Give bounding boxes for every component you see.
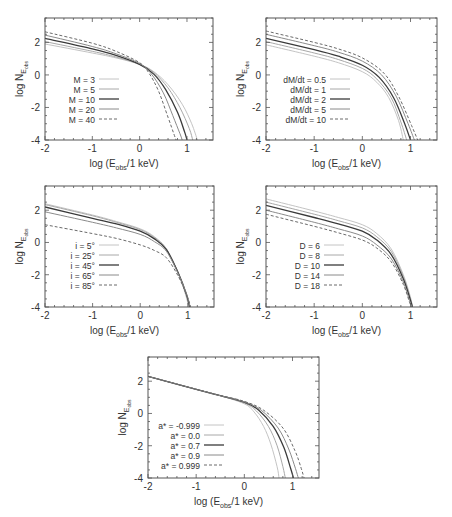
x-tick-label: -2 bbox=[262, 310, 271, 321]
series-line bbox=[266, 214, 412, 307]
legend-label: i = 65° bbox=[71, 271, 95, 281]
legend-label: i = 5° bbox=[75, 241, 95, 251]
y-axis-label: log NEobs bbox=[14, 60, 29, 97]
x-axis-label: log (Eobs/1 keV) bbox=[312, 325, 381, 338]
legend-label: a* = 0.999 bbox=[161, 461, 200, 471]
chart-panel-distance: -2-101-4-202log (Eobs/1 keV)log NEobsD =… bbox=[235, 186, 437, 338]
y-tick-label: -2 bbox=[31, 102, 40, 113]
y-tick-label: 2 bbox=[255, 205, 261, 216]
legend-label: M = 20 bbox=[69, 105, 95, 115]
x-tick-label: 1 bbox=[184, 143, 190, 154]
y-tick-label: 2 bbox=[34, 37, 40, 48]
series-line bbox=[45, 225, 191, 307]
figure-canvas: -2-101-4-202log (Eobs/1 keV)log NEobsM =… bbox=[0, 0, 452, 517]
legend-label: dM/dt = 1 bbox=[290, 85, 326, 95]
legend-label: D = 6 bbox=[299, 241, 320, 251]
x-tick-label: -1 bbox=[310, 143, 319, 154]
x-tick-label: -1 bbox=[88, 310, 97, 321]
y-tick-label: 0 bbox=[34, 237, 40, 248]
y-tick-label: 0 bbox=[34, 70, 40, 81]
y-tick-label: 2 bbox=[255, 37, 261, 48]
y-tick-label: -4 bbox=[134, 473, 143, 484]
legend-label: dM/dt = 0.5 bbox=[283, 75, 326, 85]
y-tick-label: 0 bbox=[255, 237, 261, 248]
legend-label: D = 14 bbox=[295, 271, 321, 281]
chart-panel-inclination: -2-101-4-202log (Eobs/1 keV)log NEobsi =… bbox=[14, 186, 214, 338]
x-axis-label: log (Eobs/1 keV) bbox=[194, 496, 263, 509]
legend-label: a* = 0.7 bbox=[170, 441, 200, 451]
plot-frame bbox=[266, 186, 437, 307]
x-tick-label: 0 bbox=[137, 310, 143, 321]
y-tick-label: -2 bbox=[31, 270, 40, 281]
chart-panel-accretion-rate: -2-101-4-202log (Eobs/1 keV)log NEobsdM/… bbox=[235, 18, 437, 171]
x-tick-label: -2 bbox=[41, 310, 50, 321]
x-tick-label: 0 bbox=[137, 143, 143, 154]
legend: D = 6D = 8D = 10D = 14D = 18 bbox=[295, 241, 344, 291]
y-tick-label: -4 bbox=[31, 135, 40, 146]
legend: i = 5°i = 25°i = 45°i = 65°i = 85° bbox=[71, 241, 119, 291]
x-tick-label: 1 bbox=[290, 481, 296, 492]
legend-label: D = 10 bbox=[295, 261, 321, 271]
x-tick-label: 0 bbox=[360, 310, 366, 321]
y-tick-label: -4 bbox=[31, 302, 40, 313]
legend-label: M = 5 bbox=[74, 85, 96, 95]
x-tick-label: -2 bbox=[41, 143, 50, 154]
chart-panel-spin: -2-101-4-202log (Eobs/1 keV)log NEobsa* … bbox=[117, 357, 319, 509]
x-tick-label: 0 bbox=[242, 481, 248, 492]
y-tick-label: -4 bbox=[252, 302, 261, 313]
legend: dM/dt = 0.5dM/dt = 1dM/dt = 2dM/dt = 5dM… bbox=[283, 75, 350, 125]
legend-label: M = 3 bbox=[74, 75, 96, 85]
y-tick-label: -2 bbox=[252, 102, 261, 113]
y-tick-label: -4 bbox=[252, 135, 261, 146]
y-tick-label: 0 bbox=[255, 70, 261, 81]
x-tick-label: 0 bbox=[360, 143, 366, 154]
legend: M = 3M = 5M = 10M = 20M = 40 bbox=[69, 75, 119, 125]
x-tick-label: -2 bbox=[262, 143, 271, 154]
y-axis-label: log NEobs bbox=[117, 399, 132, 436]
legend-label: i = 25° bbox=[71, 251, 95, 261]
x-axis-label: log (Eobs/1 keV) bbox=[90, 325, 159, 338]
x-tick-label: -1 bbox=[310, 310, 319, 321]
x-tick-label: 1 bbox=[185, 310, 191, 321]
legend-label: i = 85° bbox=[71, 281, 95, 291]
x-axis-label: log (Eobs/1 keV) bbox=[312, 158, 381, 171]
legend-label: dM/dt = 5 bbox=[290, 105, 326, 115]
plot-area bbox=[266, 199, 412, 307]
x-tick-label: 1 bbox=[408, 143, 414, 154]
legend-label: M = 40 bbox=[69, 115, 95, 125]
series-line bbox=[266, 42, 407, 140]
legend-label: a* = 0.9 bbox=[170, 451, 200, 461]
series-line bbox=[45, 212, 190, 307]
y-axis-label: log NEobs bbox=[235, 60, 250, 97]
series-line bbox=[266, 45, 403, 140]
x-tick-label: -2 bbox=[144, 481, 153, 492]
legend-label: dM/dt = 10 bbox=[286, 115, 327, 125]
y-axis-label: log NEobs bbox=[14, 228, 29, 265]
legend-label: a* = -0.999 bbox=[158, 421, 200, 431]
y-tick-label: 2 bbox=[34, 205, 40, 216]
y-tick-label: -2 bbox=[252, 270, 261, 281]
chart-panel-mass: -2-101-4-202log (Eobs/1 keV)log NEobsM =… bbox=[14, 18, 213, 171]
y-tick-label: -2 bbox=[134, 441, 143, 452]
x-axis-label: log (Eobs/1 keV) bbox=[89, 158, 158, 171]
legend-label: D = 18 bbox=[295, 281, 321, 291]
figure: -2-101-4-202log (Eobs/1 keV)log NEobsM =… bbox=[0, 0, 452, 517]
x-tick-label: -1 bbox=[88, 143, 97, 154]
legend: a* = -0.999a* = 0.0a* = 0.7a* = 0.9a* = … bbox=[158, 421, 224, 471]
series-line bbox=[45, 205, 189, 307]
legend-label: dM/dt = 2 bbox=[290, 95, 326, 105]
legend-label: D = 8 bbox=[299, 251, 320, 261]
y-tick-label: 0 bbox=[137, 408, 143, 419]
legend-label: M = 10 bbox=[69, 95, 95, 105]
x-tick-label: -1 bbox=[192, 481, 201, 492]
legend-label: a* = 0.0 bbox=[170, 431, 200, 441]
y-tick-label: 2 bbox=[137, 376, 143, 387]
y-axis-label: log NEobs bbox=[235, 228, 250, 265]
legend-label: i = 45° bbox=[71, 261, 95, 271]
x-tick-label: 1 bbox=[408, 310, 414, 321]
